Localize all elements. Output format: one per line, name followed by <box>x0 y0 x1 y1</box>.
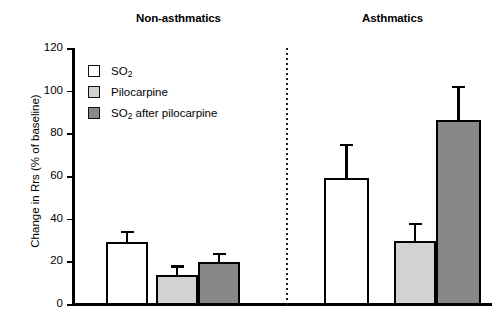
legend-label-so2-main: SO <box>111 65 128 77</box>
error-cap <box>121 231 134 233</box>
y-tick-label-40: 40 <box>50 213 63 225</box>
error-cap <box>213 253 226 255</box>
legend-label-so2-after-pilocarpine-subscript: 2 <box>128 111 133 121</box>
error-stem <box>414 223 416 242</box>
error-bar-non-asthmatics-pilocarpine <box>156 265 198 276</box>
bar-chart-figure: Non-asthmatics Asthmatics Change in Rrs … <box>0 0 504 323</box>
error-bar-non-asthmatics-so2 <box>106 231 148 243</box>
group-divider-dotted-line <box>286 48 288 305</box>
legend-item-so2-after-pilocarpine: SO2 after pilocarpine <box>88 102 217 123</box>
y-tick-label-100: 100 <box>44 85 63 97</box>
y-tick-label-20: 20 <box>50 256 63 268</box>
group-title-asthmatics: Asthmatics <box>362 12 423 24</box>
legend-label-so2-after-pilocarpine: SO2 after pilocarpine <box>111 107 217 119</box>
legend-item-so2: SO2 <box>88 60 217 81</box>
error-cap <box>340 144 353 146</box>
y-tick-label-60: 60 <box>50 170 63 182</box>
y-tick-label-0: 0 <box>57 298 63 310</box>
y-tick-label-80: 80 <box>50 128 63 140</box>
error-cap <box>452 86 465 88</box>
legend-label-so2-subscript: 2 <box>128 69 133 79</box>
bar-non-asthmatics-so2 <box>106 242 148 305</box>
legend-item-pilocarpine: Pilocarpine <box>88 81 217 102</box>
bar-asthmatics-so2-after-pilocarpine <box>436 120 481 305</box>
legend-label-so2-after-pilocarpine-main: SO <box>111 107 128 119</box>
error-cap <box>409 223 422 225</box>
bar-non-asthmatics-so2-after-pilocarpine <box>198 262 240 305</box>
bar-asthmatics-so2 <box>324 178 369 305</box>
legend-swatch-pilocarpine <box>88 86 100 98</box>
error-bar-asthmatics-so2 <box>324 144 369 179</box>
bar-asthmatics-pilocarpine <box>394 241 436 305</box>
error-stem <box>345 144 347 179</box>
bar-non-asthmatics-pilocarpine <box>156 275 198 305</box>
error-cap <box>171 265 184 267</box>
legend-label-pilocarpine: Pilocarpine <box>111 86 168 98</box>
y-tick-label-120: 120 <box>44 42 63 54</box>
legend-label-pilocarpine-main: Pilocarpine <box>111 86 168 98</box>
error-bar-asthmatics-so2-after-pilocarpine <box>436 86 481 121</box>
error-bar-non-asthmatics-so2-after-pilocarpine <box>198 253 240 264</box>
legend-label-so2: SO2 <box>111 65 132 77</box>
error-stem <box>457 86 459 121</box>
legend-label-so2-after-pilocarpine-tail: after pilocarpine <box>132 107 217 119</box>
legend-swatch-so2 <box>88 65 100 77</box>
y-axis-title: Change in Rrs (% of baseline) <box>29 56 41 286</box>
error-bar-asthmatics-pilocarpine <box>394 223 436 242</box>
legend: SO2 Pilocarpine SO2 after pilocarpine <box>88 60 217 123</box>
legend-swatch-so2-after-pilocarpine <box>88 107 100 119</box>
group-title-non-asthmatics: Non-asthmatics <box>136 12 221 24</box>
